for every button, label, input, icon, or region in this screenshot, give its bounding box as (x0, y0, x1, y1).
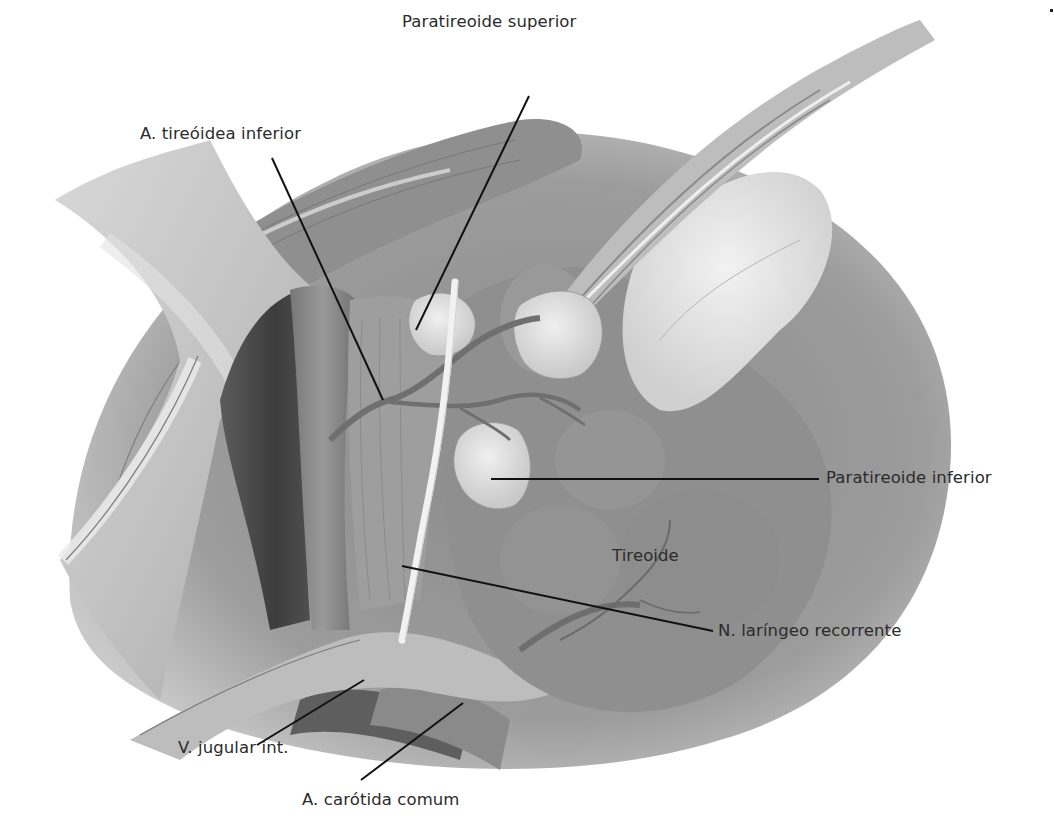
label-a-tireoidea-inferior: A. tireóidea inferior (140, 126, 301, 143)
corner-mark (1050, 9, 1053, 12)
label-v-jugular-int: V. jugular int. (178, 740, 289, 757)
label-n-laringeo-recorrente: N. laríngeo recorrente (718, 623, 901, 640)
label-tireoide: Tireoide (612, 548, 679, 565)
illustration-canvas (0, 0, 1054, 816)
anatomical-illustration: Paratireoide superior A. tireóidea infer… (0, 0, 1054, 816)
label-paratireoide-inferior: Paratireoide inferior (826, 470, 992, 487)
label-paratireoide-superior: Paratireoide superior (402, 14, 576, 31)
label-a-carotida-comum: A. carótida comum (302, 792, 460, 809)
